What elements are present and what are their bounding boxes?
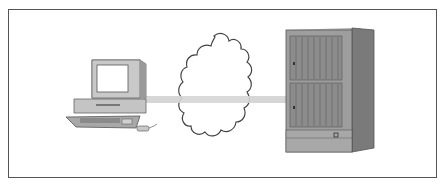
network-diagram <box>0 0 447 186</box>
mainframe-cabinet-icon <box>286 28 374 152</box>
desktop-computer-icon <box>66 60 157 131</box>
network-cloud-icon <box>179 34 252 136</box>
